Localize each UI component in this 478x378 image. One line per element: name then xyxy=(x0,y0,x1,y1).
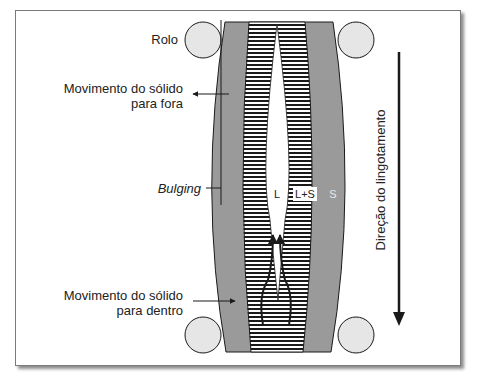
solid-label: S xyxy=(329,188,336,200)
bulging-label: Bulging xyxy=(158,181,202,196)
roll-bottom-left xyxy=(185,317,221,353)
outward-label-line2: para fora xyxy=(131,96,184,111)
roll-bottom-right xyxy=(338,317,374,353)
liquid-label: L xyxy=(274,188,280,200)
outward-label-line1: Movimento do sólido xyxy=(64,81,183,96)
casting-direction-label: Direção do lingotamento xyxy=(373,110,388,251)
roll-label: Rolo xyxy=(151,32,178,47)
inward-label-line1: Movimento do sólido xyxy=(64,288,183,303)
inward-label-line2: para dentro xyxy=(117,303,184,318)
roll-top-right xyxy=(338,22,374,58)
casting-direction-arrowhead-icon xyxy=(393,312,405,326)
mushy-label: L+S xyxy=(295,188,315,200)
roll-top-left xyxy=(185,22,221,58)
continuous-casting-diagram: Rolo Movimento do sólido para fora Bulgi… xyxy=(0,0,478,378)
